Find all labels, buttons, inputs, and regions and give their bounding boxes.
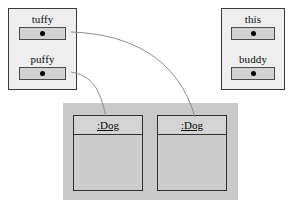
object-box-dog-left[interactable]: :Dog [73,115,143,191]
object-name-label: :Dog [181,119,203,131]
object-header: :Dog [158,116,226,135]
slot-this-value[interactable] [231,27,275,40]
object-header: :Dog [74,116,142,135]
object-name-label: :Dog [97,119,119,131]
reference-dot-icon [251,31,256,36]
reference-dot-icon [40,31,45,36]
heap-panel: :Dog :Dog [63,103,238,200]
object-attributes-compartment [74,135,142,190]
slot-buddy[interactable]: buddy [222,53,284,80]
slot-puffy[interactable]: puffy [9,53,76,80]
slot-tuffy-label: tuffy [9,13,76,25]
left-stack-frame: tuffy puffy [8,8,77,90]
slot-puffy-value[interactable] [19,67,66,80]
slot-tuffy[interactable]: tuffy [9,13,76,40]
slot-buddy-value[interactable] [231,67,275,80]
slot-tuffy-value[interactable] [19,27,66,40]
slot-puffy-label: puffy [9,53,76,65]
right-stack-frame: this buddy [221,8,285,90]
slot-buddy-label: buddy [222,53,284,65]
reference-dot-icon [40,71,45,76]
object-attributes-compartment [158,135,226,190]
slot-this-label: this [222,13,284,25]
slot-this[interactable]: this [222,13,284,40]
object-box-dog-right[interactable]: :Dog [157,115,227,191]
reference-dot-icon [251,71,256,76]
object-diagram-canvas: tuffy puffy this buddy [0,0,290,211]
